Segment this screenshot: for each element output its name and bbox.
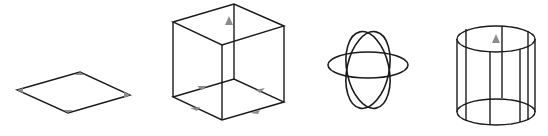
sphere-meridian-2 bbox=[339, 27, 396, 112]
plane-shape bbox=[17, 72, 130, 113]
cube-bottom-face bbox=[173, 79, 284, 120]
cylinder-markers bbox=[492, 34, 500, 43]
cube-markers bbox=[190, 16, 265, 114]
sphere-meridian-1 bbox=[339, 27, 396, 112]
marker-triangle-icon bbox=[225, 16, 233, 25]
cylinder-bottom bbox=[457, 99, 535, 125]
sphere-equator bbox=[328, 52, 408, 78]
sphere-shape bbox=[328, 27, 408, 112]
marker-triangle-icon bbox=[190, 107, 200, 111]
plane-outline bbox=[17, 72, 130, 113]
plane-markers bbox=[17, 72, 130, 113]
figure-canvas: Four wireframe 3D primitives with gray t… bbox=[0, 0, 548, 136]
marker-triangle-icon bbox=[492, 34, 500, 43]
